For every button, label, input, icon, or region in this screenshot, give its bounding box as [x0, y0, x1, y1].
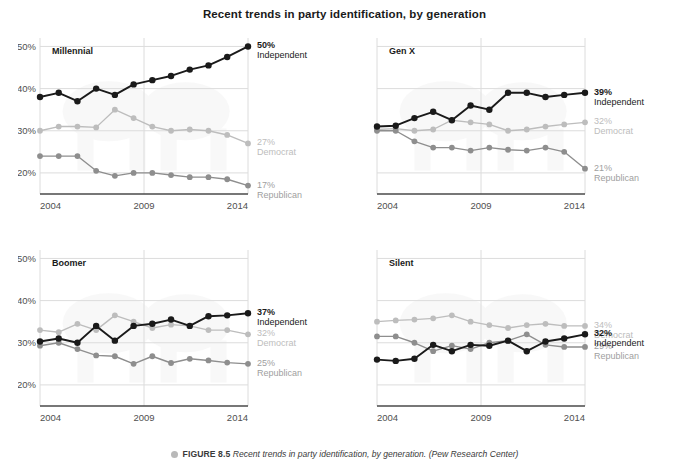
data-point [412, 340, 418, 346]
end-label-value: 37% [257, 307, 275, 317]
data-point [582, 331, 588, 337]
data-point [130, 323, 136, 329]
panel-generation-label: Boomer [52, 258, 87, 268]
data-point [524, 90, 530, 96]
background-watermark [63, 293, 230, 382]
data-point [75, 153, 81, 159]
y-tick-label: 50% [18, 41, 37, 52]
x-tick-label: 2014 [564, 412, 585, 423]
x-tick-label: 2009 [470, 412, 491, 423]
data-point [374, 319, 380, 325]
data-point [524, 127, 530, 133]
data-point [542, 94, 548, 100]
data-point [430, 109, 436, 115]
data-point [75, 346, 81, 352]
data-point [245, 331, 251, 337]
caption-source: (Pew Research Center) [429, 449, 519, 459]
data-point [205, 313, 211, 319]
data-point [430, 315, 436, 321]
data-point [430, 127, 436, 133]
data-point [93, 168, 99, 174]
data-point [430, 348, 436, 354]
data-point [468, 119, 474, 125]
data-point [543, 124, 549, 130]
data-point [393, 318, 399, 324]
data-point [505, 90, 511, 96]
end-label-party: Independent [257, 50, 308, 60]
panel-generation-label: Silent [389, 258, 414, 268]
data-point [486, 145, 492, 151]
data-point [74, 340, 80, 346]
data-point [224, 360, 230, 366]
y-tick-label: 40% [18, 83, 37, 94]
chart-panel-boomer: 20%30%40%50%200420092014Boomer32%Democra… [18, 238, 334, 434]
data-point [149, 124, 155, 130]
data-point [245, 141, 251, 147]
data-point [168, 316, 174, 322]
data-point [149, 321, 155, 327]
end-label-value: 39% [594, 87, 612, 97]
data-point [56, 335, 62, 341]
caption-text: Recent trends in party identification, b… [233, 449, 426, 459]
x-tick-label: 2014 [564, 200, 585, 211]
data-point [224, 312, 230, 318]
data-point [93, 353, 99, 359]
data-point [412, 317, 418, 323]
panel-generation-label: Millennial [52, 46, 93, 56]
data-point [412, 128, 418, 134]
chart-panel-silent: 200420092014Silent34%Democrat29%Republic… [355, 238, 671, 434]
data-point [112, 312, 118, 318]
y-tick-label: 30% [18, 337, 37, 348]
data-point [93, 323, 99, 329]
end-label-value: 32% [594, 328, 612, 338]
y-tick-label: 30% [18, 125, 37, 136]
chart-svg-millennial: 20%30%40%50%200420092014Millennial27%Dem… [18, 26, 334, 222]
data-point [37, 338, 43, 344]
data-point [468, 148, 474, 154]
data-point [93, 85, 99, 91]
end-label-value: 50% [257, 40, 275, 50]
data-point [524, 348, 530, 354]
data-point [130, 81, 136, 87]
data-point [486, 122, 492, 128]
data-point [467, 102, 473, 108]
data-point [56, 153, 62, 159]
end-label-party: Republican [594, 173, 639, 183]
data-point [149, 170, 155, 176]
data-point [187, 174, 193, 180]
data-point [245, 43, 251, 49]
end-label-party: Independent [594, 97, 645, 107]
data-point [542, 338, 548, 344]
data-point [187, 66, 193, 72]
data-point [449, 343, 455, 349]
data-point [393, 334, 399, 340]
end-label-party: Republican [257, 190, 302, 200]
data-point [187, 127, 193, 133]
end-label-value: 17% [257, 180, 275, 190]
data-point [467, 342, 473, 348]
data-point [505, 128, 511, 134]
data-point [149, 77, 155, 83]
chart-svg-boomer: 20%30%40%50%200420092014Boomer32%Democra… [18, 238, 334, 434]
y-tick-label: 20% [18, 167, 37, 178]
data-point [224, 132, 230, 138]
data-point [245, 310, 251, 316]
data-point [449, 312, 455, 318]
background-watermark [400, 81, 567, 170]
end-label-party: Republican [257, 368, 302, 378]
x-tick-label: 2004 [377, 200, 398, 211]
data-point [37, 94, 43, 100]
data-point [187, 323, 193, 329]
figure-caption: FIGURE 8.5 Recent trends in party identi… [0, 449, 689, 459]
data-point [561, 92, 567, 98]
data-point [37, 128, 43, 134]
x-tick-label: 2014 [227, 412, 248, 423]
data-point [486, 106, 492, 112]
caption-bullet-icon [171, 451, 178, 458]
data-point [56, 90, 62, 96]
data-point [37, 153, 43, 159]
background-watermark [400, 293, 567, 382]
data-point [561, 323, 567, 329]
data-point [112, 337, 118, 343]
data-point [206, 327, 212, 333]
